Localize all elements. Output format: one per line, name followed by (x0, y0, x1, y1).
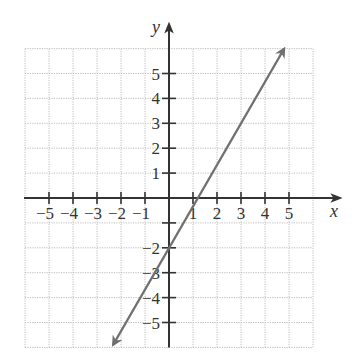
plotted-line (113, 49, 284, 345)
x-tick-label: 4 (261, 204, 270, 223)
y-axis-label: y (150, 17, 160, 37)
x-tick-label: −4 (60, 204, 79, 223)
x-tick-label: 2 (213, 204, 222, 223)
y-tick-label: 3 (152, 114, 161, 133)
axes (24, 24, 340, 347)
x-tick-label: −1 (132, 204, 150, 223)
x-axis-label: x (329, 201, 338, 221)
graph-line (113, 49, 284, 345)
x-tick-label: 3 (237, 204, 246, 223)
y-tick-label: 1 (152, 164, 161, 183)
x-tick-label: −5 (36, 204, 54, 223)
y-tick-label: 2 (152, 139, 161, 158)
y-tick-label: 4 (152, 89, 161, 108)
y-tick-label: 5 (152, 65, 161, 84)
x-tick-label: −3 (84, 204, 102, 223)
coordinate-plane: −5−4−3−2−11234554321−2−3−4−5 x y (0, 0, 355, 364)
x-tick-label: 5 (285, 204, 294, 223)
y-tick-label: −5 (142, 314, 160, 333)
y-tick-label: −2 (142, 239, 160, 258)
x-tick-label: −2 (108, 204, 126, 223)
